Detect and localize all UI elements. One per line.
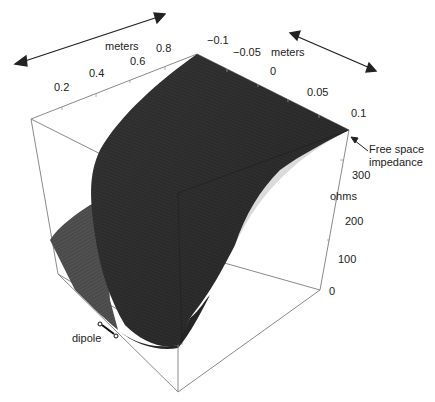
free-space-pointer bbox=[351, 137, 368, 151]
x-axis-title: meters bbox=[105, 41, 139, 52]
y-tick-0.1: 0.1 bbox=[351, 108, 366, 119]
free-space-label-line2: impedance bbox=[369, 157, 423, 168]
z-tick-100: 100 bbox=[338, 254, 356, 265]
z-axis-title: ohms bbox=[330, 191, 357, 202]
x-tick-0.4: 0.4 bbox=[89, 68, 104, 79]
surface-plot bbox=[0, 0, 435, 402]
y-axis-title: meters bbox=[271, 47, 305, 58]
z-tick-300: 300 bbox=[352, 170, 370, 181]
x-tick-0.6: 0.6 bbox=[130, 56, 145, 67]
y-tick-0: 0 bbox=[270, 66, 276, 77]
x-tick-0.2: 0.2 bbox=[54, 82, 69, 93]
z-tick-0: 0 bbox=[329, 286, 335, 297]
z-tick-200: 200 bbox=[345, 216, 363, 227]
y-tick-0.05: 0.05 bbox=[307, 87, 328, 98]
y-tick-neg0.1: −0.1 bbox=[207, 35, 229, 46]
dipole-label: dipole bbox=[72, 333, 101, 344]
free-space-label-line1: Free space bbox=[369, 144, 424, 155]
y-tick-neg0.05: −0.05 bbox=[233, 47, 261, 58]
x-tick-0.8: 0.8 bbox=[156, 43, 171, 54]
